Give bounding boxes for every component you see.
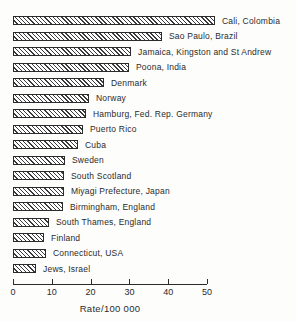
hatched-bar [13,218,49,227]
bar-category-label: Cali, Colombia [222,16,280,26]
bar-category-label: Jews, Israel [43,264,90,274]
chart-row: Finland [13,230,296,246]
hatched-bar [13,202,63,211]
bar-category-label: Jamaica, Kingston and St Andrew [138,47,271,57]
bar-category-label: Finland [51,233,80,243]
bar-category-label: Norway [96,93,126,103]
bar-category-label: Sao Paulo, Brazil [169,31,238,41]
axis-tick-mark [207,279,208,284]
chart-row: Connecticut, USA [13,246,296,262]
bar-category-label: South Scotland [71,171,131,181]
hatched-bar [13,156,65,165]
chart-row: Jamaica, Kingston and St Andrew [13,44,296,60]
bar-category-label: Sweden [72,155,104,165]
axis-tick-label: 10 [47,287,57,297]
bar-category-label: Birmingham, England [70,202,155,212]
bar-category-label: Miyagi Prefecture, Japan [71,186,170,196]
axis-tick-label: 0 [10,287,15,297]
chart-row: Jews, Israel [13,261,296,277]
chart-row: Miyagi Prefecture, Japan [13,184,296,200]
hatched-bar [13,47,131,56]
chart-row: Sweden [13,153,296,169]
hatched-bar [13,109,86,118]
axis-tick-mark [168,279,169,284]
chart-row: Cali, Colombia [13,13,296,29]
chart-rows: Cali, ColombiaSao Paulo, BrazilJamaica, … [13,13,296,277]
chart-row: Norway [13,91,296,107]
hatched-bar [13,264,36,273]
hatched-bar [13,16,215,25]
hatched-bar [13,233,44,242]
axis-tick-label: 20 [86,287,96,297]
axis-tick-mark [129,279,130,284]
hatched-bar [13,249,46,258]
bar-category-label: South Thames, England [56,217,151,227]
chart-row: Cuba [13,137,296,153]
axis-tick-mark [52,279,53,284]
bar-category-label: Connecticut, USA [53,248,123,258]
hatched-bar [13,94,89,103]
x-axis-label: Rate/100 000 [13,303,207,314]
hatched-bar [13,140,78,149]
chart-row: Birmingham, England [13,199,296,215]
hatched-bar [13,171,64,180]
axis-tick-label: 30 [124,287,134,297]
hatched-bar [13,32,162,41]
x-axis: 01020304050 [13,284,207,285]
hatched-bar [13,125,83,134]
chart-row: Hamburg, Fed. Rep. Germany [13,106,296,122]
axis-tick-mark [13,279,14,284]
axis-tick-label: 40 [163,287,173,297]
rate-bar-chart: Cali, ColombiaSao Paulo, BrazilJamaica, … [0,0,296,321]
chart-row: Denmark [13,75,296,91]
hatched-bar [13,63,129,72]
bar-category-label: Denmark [111,78,147,88]
axis-tick-mark [91,279,92,284]
chart-row: South Scotland [13,168,296,184]
bar-category-label: Poona, India [136,62,186,72]
bar-category-label: Hamburg, Fed. Rep. Germany [93,109,213,119]
hatched-bar [13,78,104,87]
bar-category-label: Cuba [85,140,106,150]
chart-row: Poona, India [13,60,296,76]
chart-row: Puerto Rico [13,122,296,138]
chart-row: South Thames, England [13,215,296,231]
hatched-bar [13,187,64,196]
chart-row: Sao Paulo, Brazil [13,29,296,45]
axis-tick-label: 50 [202,287,212,297]
bar-category-label: Puerto Rico [90,124,137,134]
